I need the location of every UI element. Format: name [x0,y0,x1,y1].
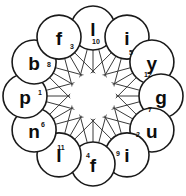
node-number-label: 6 [41,121,45,128]
diagram-canvas: liyguiflnpbf 105127294116183 [0,0,186,196]
chord-layer [46,49,140,143]
node-number-label: 2 [136,131,140,138]
node-number-label: 12 [144,71,152,78]
node-number-label: 11 [57,144,65,151]
node-number-label: 3 [70,43,74,50]
node-number-label: 10 [92,38,100,45]
node-letter: n [28,121,40,142]
graph-node[interactable]: f [37,15,81,59]
node-letter: i [124,145,129,166]
node-letter: b [28,53,40,74]
node-letter: p [19,87,31,108]
node-number-label: 9 [116,150,120,157]
node-letter: f [90,155,97,176]
node-letter: f [56,28,63,49]
node-number-label: 5 [129,49,133,56]
node-number-label: 1 [38,89,42,96]
node-number-label: 8 [47,61,51,68]
circular-graph-svg: liyguiflnpbf 105127294116183 [0,0,186,196]
node-number-label: 7 [148,106,152,113]
node-letter: l [90,19,95,40]
center-gap [70,73,116,119]
node-letter: i [124,28,129,49]
node-letter: u [146,121,158,142]
node-number-label: 4 [86,152,90,159]
node-letter: g [155,87,167,108]
